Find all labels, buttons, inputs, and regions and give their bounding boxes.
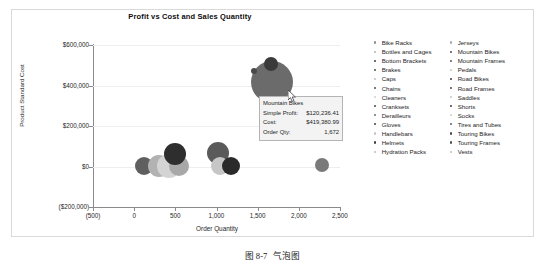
legend-marker-icon [374,132,376,134]
legend-marker-icon [374,141,376,143]
legend-item[interactable]: Hydration Packs [372,147,448,156]
bubble-point[interactable] [222,157,240,175]
legend-item-label: Road Bikes [458,75,489,82]
legend-marker-icon [374,105,376,107]
y-axis-tick-label: $600,000 [3,41,89,48]
legend-item-label: Vests [458,148,473,155]
legend-item[interactable]: Tires and Tubes [448,120,524,129]
legend-marker-icon [450,114,452,116]
legend-column-2: JerseysMountain BikesMountain FramesPeda… [448,38,524,156]
legend-item[interactable]: Socks [448,111,524,120]
legend-item-label: Hydration Packs [382,148,426,155]
legend-marker-icon [450,69,452,71]
legend-item[interactable]: Chains [372,83,448,92]
legend-item[interactable]: Bottles and Cages [372,47,448,56]
legend-item-label: Road Frames [458,85,495,92]
data-point-tooltip: Mountain Bikes Simple Profit:$120,236.41… [259,96,343,141]
gridline [93,45,340,46]
legend-item[interactable]: Derailleurs [372,111,448,120]
y-axis-tick-label: $200,000 [3,122,89,129]
legend-marker-icon [374,41,376,43]
legend-item[interactable]: Vests [448,147,524,156]
legend-item-label: Mountain Frames [458,57,505,64]
legend: Bike RacksBottles and CagesBottom Bracke… [372,38,532,156]
legend-item[interactable]: Helmets [372,138,448,147]
legend-marker-icon [374,87,376,89]
legend-item-label: Bottles and Cages [382,48,432,55]
legend-marker-icon [450,105,452,107]
legend-marker-icon [374,60,376,62]
y-axis-tick-label: $400,000 [3,82,89,89]
legend-item-label: Cleaners [382,94,406,101]
tooltip-row: Order Qty:1,672 [263,128,339,138]
legend-item[interactable]: Caps [372,74,448,83]
y-axis-tick-label: ($200,000) [3,203,89,210]
legend-item[interactable]: Road Frames [448,83,524,92]
legend-marker-icon [450,87,452,89]
legend-item[interactable]: Jerseys [448,38,524,47]
legend-item[interactable]: Road Bikes [448,74,524,83]
legend-item-label: Cranksets [382,103,409,110]
legend-item[interactable]: Cranksets [372,102,448,111]
legend-marker-icon [450,51,452,53]
legend-item[interactable]: Gloves [372,120,448,129]
legend-marker-icon [374,123,376,125]
legend-item-label: Derailleurs [382,112,411,119]
legend-column-1: Bike RacksBottles and CagesBottom Bracke… [372,38,448,156]
legend-item-label: Brakes [382,66,401,73]
legend-marker-icon [374,114,376,116]
bubble-point[interactable] [251,68,257,74]
legend-item[interactable]: Saddles [448,93,524,102]
bubble-point[interactable] [315,158,329,172]
legend-item-label: Touring Bikes [458,130,495,137]
x-axis-tick [175,207,176,211]
tooltip-title: Mountain Bikes [263,99,339,109]
legend-item[interactable]: Cleaners [372,93,448,102]
tooltip-row: Cost:$419,380.99 [263,118,339,128]
legend-marker-icon [374,78,376,80]
y-axis-tick-labels: $600,000$400,000$200,000$0($200,000) [0,0,89,272]
legend-marker-icon [450,96,452,98]
x-axis-tick [93,207,94,211]
legend-item[interactable]: Brakes [372,65,448,74]
tooltip-row: Simple Profit:$120,236.41 [263,109,339,119]
x-axis-tick [134,207,135,211]
legend-item[interactable]: Mountain Bikes [448,47,524,56]
legend-item-label: Handlebars [382,130,413,137]
legend-item-label: Touring Frames [458,139,500,146]
tooltip-rows: Simple Profit:$120,236.41Cost:$419,380.9… [263,109,339,138]
tooltip-row-value: $120,236.41 [302,109,339,119]
x-axis-title: Order Quantity [93,225,341,232]
legend-item[interactable]: Bike Racks [372,38,448,47]
legend-item[interactable]: Mountain Frames [448,56,524,65]
legend-item[interactable]: Pedals [448,65,524,74]
figure-caption: 图 8-7气泡图 [0,249,545,261]
bubble-point[interactable] [264,57,278,71]
legend-marker-icon [450,132,452,134]
legend-item[interactable]: Touring Bikes [448,129,524,138]
tooltip-row-key: Cost: [263,118,277,128]
legend-item-label: Bottom Brackets [382,57,427,64]
legend-marker-icon [450,60,452,62]
bubble-point[interactable] [164,143,186,165]
legend-marker-icon [374,96,376,98]
legend-marker-icon [374,151,376,153]
x-axis-tick [258,207,259,211]
tooltip-row-key: Order Qty: [263,128,291,138]
legend-item-label: Pedals [458,66,477,73]
legend-item[interactable]: Handlebars [372,129,448,138]
legend-item-label: Socks [458,112,475,119]
legend-item-label: Chains [382,85,401,92]
legend-item-label: Jerseys [458,39,479,46]
x-axis-tick-label: 2,500 [315,212,365,219]
legend-item[interactable]: Touring Frames [448,138,524,147]
tooltip-row-value: $419,380.99 [302,118,339,128]
legend-marker-icon [450,78,452,80]
caption-text: 气泡图 [273,251,300,261]
mouse-cursor-icon [288,88,297,100]
legend-marker-icon [450,141,452,143]
legend-item[interactable]: Bottom Brackets [372,56,448,65]
legend-item[interactable]: Shorts [448,102,524,111]
legend-marker-icon [450,123,452,125]
legend-item-label: Saddles [458,94,480,101]
